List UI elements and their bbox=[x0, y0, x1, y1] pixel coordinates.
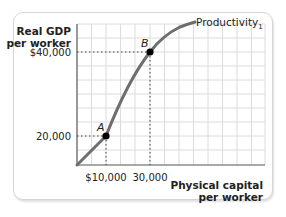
grid bbox=[77, 24, 265, 165]
x-tick-10000: $10,000 bbox=[85, 172, 126, 183]
productivity-chart: A B Productivity1 Real GDP per worker $4… bbox=[0, 0, 286, 217]
x-axis-label-line1: Physical capital bbox=[170, 179, 263, 191]
y-tick-40000: $40,000 bbox=[30, 47, 71, 58]
x-axis-label-line2: per worker bbox=[198, 191, 263, 203]
point-a-label: A bbox=[96, 121, 105, 134]
point-b-label: B bbox=[141, 37, 149, 50]
x-tick-30000: 30,000 bbox=[133, 172, 168, 183]
curve-label: Productivity1 bbox=[196, 16, 263, 31]
y-axis-label-line1: Real GDP bbox=[16, 25, 71, 37]
y-tick-20000: 20,000 bbox=[36, 131, 71, 142]
